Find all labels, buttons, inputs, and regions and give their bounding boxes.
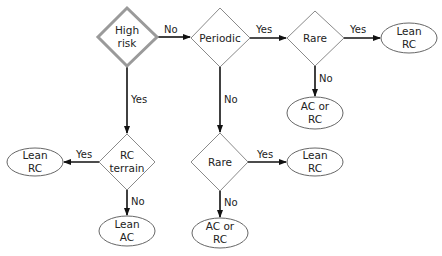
flowchart-canvas: No Yes Yes No Yes Yes No No — [0, 0, 442, 256]
edge-label: Yes — [349, 24, 366, 35]
node-high-risk: High risk — [98, 8, 157, 66]
node-lean-rc-mid: Lean RC — [287, 148, 343, 176]
edge-rare-top-ac-or-rc-top: No — [315, 66, 333, 96]
edge-highrisk-rc-terrain: Yes — [127, 67, 147, 133]
edge-label: No — [224, 94, 238, 105]
edge-rc-terrain-lean-ac: No — [127, 190, 145, 215]
node-label-line1: High — [115, 24, 139, 36]
edge-periodic-rare-bottom: No — [220, 67, 238, 132]
node-label-line1: Lean — [114, 218, 139, 230]
edge-rare-top-lean-rc-top: Yes — [344, 24, 380, 38]
edge-rare-bottom-ac-or-rc-bottom: No — [220, 191, 238, 217]
edge-label: No — [224, 197, 238, 208]
node-label-line2: RC — [28, 162, 42, 174]
node-label-line1: RC — [120, 149, 134, 161]
node-label: Rare — [303, 32, 327, 44]
edge-periodic-rare-top: Yes — [250, 24, 286, 38]
edge-rc-terrain-lean-rc-left: Yes — [64, 149, 99, 162]
node-label-line1: AC or — [301, 100, 330, 112]
edge-label: Yes — [255, 24, 272, 35]
node-periodic: Periodic — [191, 8, 250, 67]
node-label-line2: RC — [308, 113, 322, 125]
node-label-line2: risk — [118, 37, 138, 49]
node-label-line1: Lean — [22, 149, 47, 161]
node-label-line2: AC — [120, 231, 134, 243]
edge-rare-bottom-lean-rc-mid: Yes — [248, 149, 286, 162]
node-ac-or-rc-bottom: AC or RC — [192, 218, 248, 248]
edge-label: No — [164, 24, 178, 35]
edge-label: Yes — [256, 149, 273, 160]
node-lean-rc-top: Lean RC — [381, 23, 437, 53]
node-rc-terrain: RC terrain — [99, 134, 155, 190]
node-label: Rare — [208, 156, 232, 168]
edge-label: Yes — [130, 94, 147, 105]
node-label-line2: RC — [402, 38, 416, 50]
node-ac-or-rc-top: AC or RC — [287, 97, 343, 129]
node-label-line2: terrain — [109, 162, 144, 174]
edge-highrisk-periodic: No — [158, 24, 190, 37]
node-rare-bottom: Rare — [191, 133, 248, 191]
edge-label: No — [131, 196, 145, 207]
node-label-line1: Lean — [302, 149, 327, 161]
node-label: Periodic — [199, 32, 241, 44]
node-label-line2: RC — [308, 162, 322, 174]
node-lean-rc-left: Lean RC — [7, 148, 63, 176]
node-rare-top: Rare — [287, 11, 344, 66]
node-label-line1: Lean — [396, 25, 421, 37]
edge-label: No — [319, 73, 333, 84]
edge-label: Yes — [75, 149, 92, 160]
node-label-line1: AC or — [206, 220, 235, 232]
node-lean-ac: Lean AC — [99, 216, 155, 246]
node-label-line2: RC — [213, 233, 227, 245]
